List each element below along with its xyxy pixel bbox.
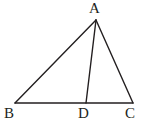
triangle-diagram-svg — [0, 0, 145, 126]
vertex-label-a: A — [89, 1, 100, 16]
figure-background — [0, 0, 145, 126]
vertex-label-b: B — [4, 106, 14, 121]
geometry-figure: A B D C — [0, 0, 145, 126]
vertex-label-d: D — [78, 106, 89, 121]
vertex-label-c: C — [125, 106, 135, 121]
